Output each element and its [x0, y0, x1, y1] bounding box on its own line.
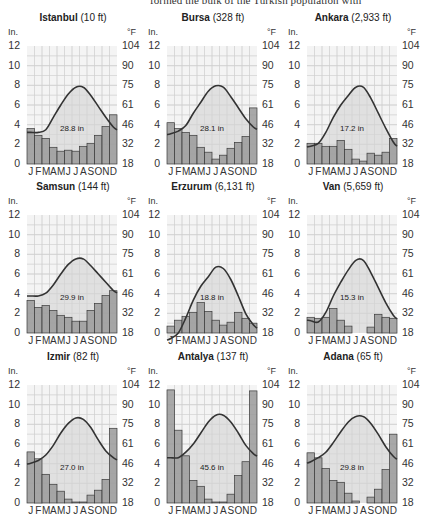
month-label: M: [197, 335, 205, 346]
left-tick-label: 2: [2, 306, 20, 318]
annual-precip-label: 28.1 in: [200, 124, 224, 133]
month-label: M: [337, 335, 345, 346]
left-tick-label: 12: [282, 208, 300, 220]
precip-bar: [352, 501, 360, 503]
precip-bar: [190, 312, 198, 333]
precip-bar: [35, 136, 43, 165]
left-tick-label: 2: [142, 137, 160, 149]
precip-bar: [65, 499, 73, 503]
month-label: S: [87, 335, 95, 346]
left-tick-label: 0: [142, 326, 160, 338]
body-text-fragment: formed the bulk of the Turkish populatio…: [150, 0, 425, 6]
month-label: J: [345, 166, 353, 177]
precip-bar: [250, 391, 258, 503]
precip-bar: [390, 434, 398, 503]
month-label: M: [182, 505, 190, 516]
month-label: A: [190, 505, 198, 516]
precip-bar: [57, 151, 65, 164]
precip-bar: [367, 327, 375, 333]
precip-bar: [242, 137, 250, 165]
right-tick-label: 18: [402, 326, 425, 338]
left-tick-label: 10: [282, 398, 300, 410]
precip-bar: [72, 151, 80, 164]
precip-bar: [35, 459, 43, 503]
month-label: J: [65, 335, 73, 346]
month-axis: JFMAMJJASOND: [27, 335, 117, 346]
left-tick-label: 6: [2, 98, 20, 110]
left-tick-label: 10: [2, 398, 20, 410]
left-tick-label: 6: [2, 267, 20, 279]
month-label: J: [167, 166, 175, 177]
month-axis: JFMAMJJASOND: [307, 505, 397, 516]
left-tick-label: 12: [2, 208, 20, 220]
month-label: F: [175, 505, 183, 516]
precip-bar: [197, 303, 205, 334]
left-tick-label: 2: [282, 476, 300, 488]
left-tick-label: 0: [142, 496, 160, 508]
month-label: O: [375, 335, 383, 346]
precip-bar: [367, 497, 375, 503]
month-label: A: [80, 166, 88, 177]
month-label: N: [102, 166, 110, 177]
annual-precip-label: 18.8 in: [200, 293, 224, 302]
right-tick-label: 90: [402, 59, 425, 71]
month-label: A: [190, 166, 198, 177]
left-tick-label: 6: [142, 98, 160, 110]
month-label: N: [242, 505, 250, 516]
precip-bar: [345, 149, 353, 164]
annual-precip-label: 29.8 in: [340, 463, 364, 472]
left-tick-label: 8: [2, 417, 20, 429]
month-label: M: [42, 166, 50, 177]
month-label: S: [227, 505, 235, 516]
right-tick-label: 46: [402, 287, 425, 299]
left-tick-label: 8: [142, 417, 160, 429]
month-label: M: [197, 505, 205, 516]
month-label: O: [95, 335, 103, 346]
month-label: N: [382, 166, 390, 177]
climograph-bursa: Bursa (328 ft)In.°F121086420104907561463…: [140, 12, 285, 182]
precip-bar: [345, 326, 353, 333]
precip-bar: [80, 502, 88, 503]
month-label: A: [80, 505, 88, 516]
precip-bar: [212, 320, 220, 333]
left-tick-label: 4: [2, 287, 20, 299]
left-tick-label: 8: [282, 417, 300, 429]
month-label: O: [95, 166, 103, 177]
right-tick-label: 32: [402, 476, 425, 488]
month-label: J: [72, 505, 80, 516]
month-label: M: [337, 505, 345, 516]
left-tick-label: 8: [142, 247, 160, 259]
month-axis: JFMAMJJASOND: [307, 166, 397, 177]
precip-bar: [87, 495, 95, 503]
left-tick-label: 10: [2, 59, 20, 71]
precip-bar: [27, 301, 35, 333]
month-label: S: [367, 335, 375, 346]
left-tick-label: 12: [2, 378, 20, 390]
left-tick-label: 10: [282, 59, 300, 71]
month-label: D: [250, 166, 258, 177]
month-label: F: [35, 166, 43, 177]
month-label: F: [315, 335, 323, 346]
precip-bar: [57, 491, 65, 503]
precip-bar: [197, 147, 205, 164]
right-tick-label: 75: [402, 78, 425, 90]
left-tick-label: 4: [142, 287, 160, 299]
month-label: F: [175, 166, 183, 177]
annual-precip-label: 17.2 in: [340, 124, 364, 133]
month-label: A: [330, 505, 338, 516]
month-label: F: [35, 335, 43, 346]
left-tick-label: 0: [142, 157, 160, 169]
left-tick-label: 8: [282, 78, 300, 90]
precip-bar: [345, 493, 353, 503]
month-label: A: [50, 505, 58, 516]
precip-bar: [42, 306, 50, 334]
left-tick-label: 4: [2, 118, 20, 130]
month-label: J: [212, 166, 220, 177]
right-tick-label: 104: [402, 208, 425, 220]
precip-bar: [352, 159, 360, 164]
left-tick-label: 4: [282, 287, 300, 299]
month-label: N: [242, 166, 250, 177]
precip-bar: [42, 475, 50, 504]
month-axis: JFMAMJJASOND: [167, 505, 257, 516]
right-tick-label: 90: [402, 398, 425, 410]
